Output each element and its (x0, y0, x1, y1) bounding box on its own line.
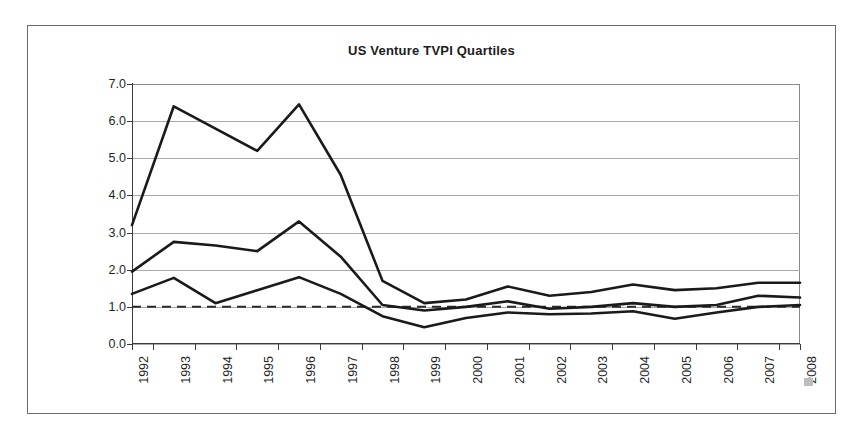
y-axis-tick-label: 4.0 (92, 188, 126, 202)
chart-frame: US Venture TVPI Quartiles 0.01.02.03.04.… (27, 25, 836, 414)
y-axis-tick-label: 6.0 (92, 114, 126, 128)
series-line-3 (132, 277, 800, 327)
y-axis-tick-label: 7.0 (92, 77, 126, 91)
y-axis-tick-label: 2.0 (92, 263, 126, 277)
x-axis-tick-label: 2002 (555, 356, 569, 384)
scan-artifact (804, 378, 813, 386)
y-axis-tick-label: 0.0 (92, 337, 126, 351)
x-axis-tick-label: 2000 (471, 356, 485, 384)
x-axis-tick-label: 1997 (346, 356, 360, 384)
x-axis-tick-label: 1995 (262, 356, 276, 384)
x-axis-tick-label: 2004 (638, 356, 652, 384)
chart-title: US Venture TVPI Quartiles (28, 43, 835, 58)
x-axis-tick-label: 2007 (763, 356, 777, 384)
y-axis-labels: 0.01.02.03.04.05.06.07.0 (86, 84, 126, 344)
series-layer (132, 84, 800, 344)
x-axis-tick-label: 1994 (221, 356, 235, 384)
x-axis-tick-label: 1996 (304, 356, 318, 384)
x-axis-tick-label: 2003 (596, 356, 610, 384)
y-axis-tick-label: 5.0 (92, 151, 126, 165)
x-axis-tick-label: 2001 (513, 356, 527, 384)
x-axis-tick-mark (800, 344, 801, 350)
x-axis-tick-label: 1992 (137, 356, 151, 384)
x-axis-tick-label: 1998 (388, 356, 402, 384)
y-axis-tick-label: 1.0 (92, 300, 126, 314)
x-axis-labels: 1992199319941995199619971998199920002001… (132, 344, 800, 414)
x-axis-tick-label: 1999 (429, 356, 443, 384)
x-axis-tick-label: 2005 (680, 356, 694, 384)
x-axis-tick-label: 2006 (722, 356, 736, 384)
series-line-1 (132, 104, 800, 303)
y-axis-tick-label: 3.0 (92, 226, 126, 240)
plot-wrapper: 0.01.02.03.04.05.06.07.0 199219931994199… (132, 84, 800, 344)
screenshot-page: US Venture TVPI Quartiles 0.01.02.03.04.… (0, 0, 863, 442)
x-axis-tick-label: 1993 (179, 356, 193, 384)
